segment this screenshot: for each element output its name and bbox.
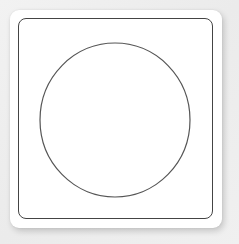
circle-shape <box>0 0 239 244</box>
circle <box>40 43 190 197</box>
